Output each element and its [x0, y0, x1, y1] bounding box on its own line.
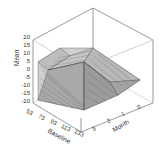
- z-tick-label: 15: [14, 42, 30, 48]
- z-tick-label: 10: [14, 50, 30, 56]
- z-tick-label: 0: [14, 66, 30, 72]
- z-tick-label: -15: [14, 90, 30, 96]
- z-tick-label: -20: [14, 98, 30, 104]
- surface-mesh: [38, 48, 140, 110]
- z-tick-label: -10: [14, 82, 30, 88]
- z-tick-label: 20: [14, 34, 30, 40]
- z-tick-label: 5: [14, 58, 30, 64]
- z-tick-label: -5: [14, 74, 30, 80]
